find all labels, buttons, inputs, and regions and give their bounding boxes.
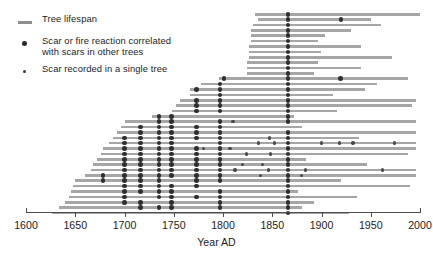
scar-marker-correlated <box>218 146 223 151</box>
scar-marker-correlated <box>122 162 127 167</box>
scar-marker-correlated <box>138 178 143 183</box>
scar-marker-correlated <box>169 119 174 124</box>
tree-lifespan-bar <box>97 158 306 161</box>
fire-scar-chart: Tree lifespan Scar or fire reaction corr… <box>0 0 433 264</box>
scar-marker-correlated <box>122 168 127 173</box>
scar-marker-correlated <box>286 103 291 108</box>
tree-lifespan-bar <box>255 13 420 16</box>
scar-marker-correlated <box>286 178 291 183</box>
scar-marker-correlated <box>194 157 199 162</box>
tree-lifespan-bar <box>258 18 370 21</box>
axis-tick-label: 2000 <box>408 219 432 231</box>
scar-marker-correlated <box>122 157 127 162</box>
scar-marker-correlated <box>194 173 199 178</box>
scar-marker-correlated <box>218 119 223 124</box>
scar-marker-correlated <box>286 82 291 87</box>
scar-marker-correlated <box>122 200 127 205</box>
scar-marker-correlated <box>169 136 174 141</box>
tree-lifespan-bar <box>190 88 365 91</box>
tree-lifespan-bar <box>85 174 416 177</box>
scar-marker-correlated <box>218 189 223 194</box>
scar-marker-correlated <box>286 114 291 119</box>
scar-marker-correlated <box>157 157 162 162</box>
axis-tick <box>125 212 126 217</box>
scar-marker-correlated <box>122 189 127 194</box>
tree-lifespan-bar <box>180 99 416 102</box>
scar-marker-correlated <box>286 189 291 194</box>
scar-marker-correlated <box>222 76 227 81</box>
scar-marker-correlated <box>218 109 223 114</box>
scar-marker-correlated <box>157 184 162 189</box>
scar-marker-correlated <box>286 168 291 173</box>
scar-marker-correlated <box>286 205 291 210</box>
tree-lifespan-bar <box>251 29 351 32</box>
scar-marker-correlated <box>194 168 199 173</box>
tree-lifespan-bar <box>69 196 357 199</box>
scar-marker-correlated <box>169 152 174 157</box>
axis-tick-label: 1750 <box>162 219 186 231</box>
scar-marker-correlated <box>286 184 291 189</box>
scar-marker-correlated <box>157 205 162 210</box>
scar-marker-correlated <box>286 146 291 151</box>
scar-marker-correlated <box>138 130 143 135</box>
tree-lifespan-bar <box>247 67 361 70</box>
scar-marker-correlated <box>218 93 223 98</box>
scar-marker-correlated <box>218 125 223 130</box>
scar-marker-correlated <box>138 125 143 130</box>
scar-marker-single <box>381 168 384 171</box>
tree-lifespan-bar <box>109 142 416 145</box>
axis-tick <box>272 212 273 217</box>
scar-marker-correlated <box>194 125 199 130</box>
tree-lifespan-bar <box>75 179 341 182</box>
scar-marker-correlated <box>218 162 223 167</box>
scar-marker-correlated <box>286 66 291 71</box>
tree-lifespan-bar <box>249 45 361 48</box>
scar-marker-correlated <box>218 98 223 103</box>
scar-marker-correlated <box>286 109 291 114</box>
scar-marker-correlated <box>218 200 223 205</box>
scar-marker-correlated <box>286 157 291 162</box>
scar-marker-correlated <box>218 173 223 178</box>
tree-lifespan-bar <box>59 206 301 209</box>
scar-marker-correlated <box>286 23 291 28</box>
scar-marker-correlated <box>169 200 174 205</box>
scar-marker-correlated <box>122 178 127 183</box>
scar-marker-correlated <box>218 87 223 92</box>
scar-marker-correlated <box>122 141 127 146</box>
scar-marker-correlated <box>101 173 106 178</box>
scar-marker-correlated <box>122 195 127 200</box>
tree-lifespan-bar <box>247 72 314 75</box>
scar-marker-correlated <box>218 141 223 146</box>
scar-marker-correlated <box>138 173 143 178</box>
scar-marker-correlated <box>138 136 143 141</box>
scar-marker-correlated <box>157 195 162 200</box>
scar-marker-correlated <box>338 76 343 81</box>
axis-tick <box>420 208 421 213</box>
scar-marker-correlated <box>286 141 291 146</box>
scar-marker-correlated <box>138 205 143 210</box>
scar-marker-correlated <box>286 71 291 76</box>
scar-marker-correlated <box>169 157 174 162</box>
scar-marker-single <box>267 168 270 171</box>
tree-lifespan-bar <box>125 120 417 123</box>
scar-marker-correlated <box>194 130 199 135</box>
scar-marker-correlated <box>286 173 291 178</box>
axis-tick <box>75 212 76 217</box>
scar-marker-correlated <box>194 98 199 103</box>
x-axis: 160016501700175018001850190019502000 Yea… <box>0 212 433 264</box>
scar-marker-single <box>320 141 323 144</box>
scar-marker-correlated <box>122 173 127 178</box>
tree-lifespan-bar <box>93 163 367 166</box>
axis-tick-label: 1800 <box>211 219 235 231</box>
scar-marker-correlated <box>286 98 291 103</box>
tree-lifespan-bar <box>121 126 302 129</box>
scar-marker-correlated <box>286 136 291 141</box>
scar-marker-correlated <box>286 130 291 135</box>
tree-lifespan-bar <box>219 77 408 80</box>
scar-marker-correlated <box>169 205 174 210</box>
scar-marker-single <box>228 147 231 150</box>
scar-marker-single <box>269 152 272 155</box>
scar-marker-correlated <box>194 178 199 183</box>
scar-marker-correlated <box>218 152 223 157</box>
scar-marker-correlated <box>138 162 143 167</box>
